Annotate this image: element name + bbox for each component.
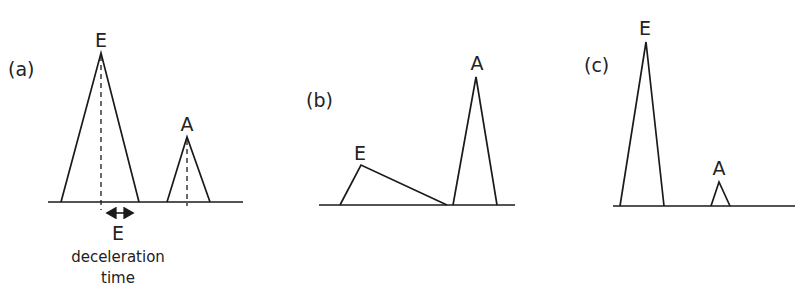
panel-b [319,77,515,205]
panel-label-b: (b) [306,89,333,111]
a-wave-c [711,182,730,206]
panel-label-a: (a) [8,58,34,80]
peak-label-e-b: E [354,142,366,164]
peak-label-a-b: A [471,52,484,74]
panel-label-c: (c) [584,54,609,76]
doppler-waveform-diagram: (a) E A E deceleration time (b) E A (c) … [0,0,812,300]
deceleration-text: deceleration [71,248,165,266]
time-text: time [101,269,135,287]
e-wave-a [61,53,139,202]
peak-label-e-a: E [95,29,107,51]
panel-c [613,42,795,206]
arrow-label-e: E [112,222,124,244]
e-wave-c [620,42,664,206]
peak-label-e-c: E [639,17,651,39]
a-wave-b [453,77,497,205]
e-wave-b [340,165,447,205]
a-wave-a [167,137,210,202]
peak-label-a-a: A [181,113,194,135]
peak-label-a-c: A [713,157,726,179]
panel-a [48,53,243,213]
